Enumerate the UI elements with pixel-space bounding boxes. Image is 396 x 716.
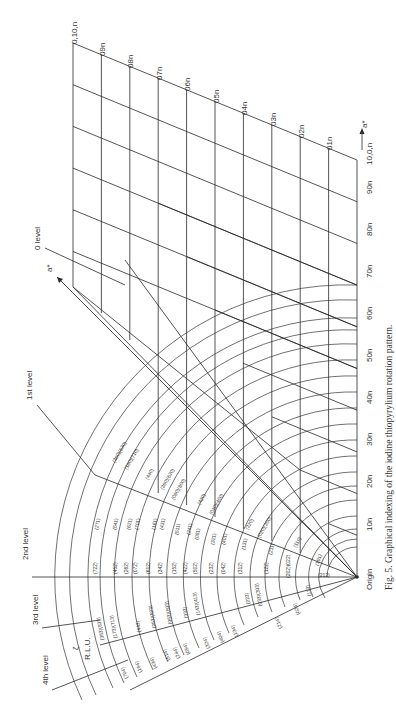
svg-text:(020)(200): (020)(200) [256, 515, 273, 539]
svg-text:(342): (342) [157, 562, 163, 574]
svg-text:(223): (223) [243, 592, 251, 605]
svg-text:(440): (440) [144, 467, 155, 480]
rlu-label: R.L.U. [83, 637, 92, 660]
svg-text:0,10,n: 0,10,n [70, 22, 79, 44]
reflections-level-2: (722) (452) (262) (072) (612) (342) (152… [92, 554, 330, 578]
svg-text:(042): (042) [220, 562, 226, 574]
svg-text:(180)(710): (180)(710) [123, 447, 140, 471]
svg-text:(621): (621) [125, 517, 133, 530]
svg-text:(312): (312) [237, 562, 243, 574]
level-3-label: 3rd level [31, 595, 40, 625]
origin-point [355, 575, 359, 579]
svg-text:80n: 80n [365, 223, 374, 236]
svg-text:(122): (122) [263, 562, 269, 574]
svg-text:(110): (110) [292, 535, 303, 548]
svg-text:02n: 02n [297, 125, 306, 138]
svg-text:(040)(400): (040)(400) [208, 492, 225, 516]
svg-text:(080)(800): (080)(800) [170, 477, 187, 501]
svg-text:(081): (081) [193, 527, 201, 540]
svg-text:(704): (704) [119, 666, 129, 679]
svg-text:(054): (054) [181, 642, 191, 655]
svg-text:(514): (514) [161, 648, 171, 661]
svg-text:(241): (241) [185, 522, 193, 535]
b-star-label: a* [45, 264, 54, 272]
svg-text:10n: 10n [365, 518, 374, 531]
a-star-label: a* [360, 120, 369, 128]
svg-text:(033)(303): (033)(303) [253, 583, 263, 607]
svg-text:(143)(413): (143)(413) [191, 592, 201, 616]
svg-text:(541): (541) [111, 517, 119, 530]
svg-text:09n: 09n [98, 43, 107, 56]
svg-text:(431): (431) [158, 517, 166, 530]
level-2-label: 2nd level [21, 528, 30, 560]
svg-text:04n: 04n [240, 102, 249, 115]
svg-text:(173)(713): (173)(713) [108, 615, 118, 639]
column-labels: 01n 02n 03n 04n 05n 06n 07n 08n 09n 0,10… [70, 22, 334, 150]
level-1-label: 1st level [25, 370, 34, 400]
svg-text:(202)(022): (202)(022) [285, 554, 291, 578]
svg-text:40n: 40n [365, 391, 374, 404]
svg-text:(211): (211) [267, 543, 275, 556]
svg-text:(072): (072) [132, 562, 138, 574]
svg-text:(113): (113) [304, 584, 312, 597]
svg-text:(134): (134) [229, 624, 239, 637]
reflections-level-3: (363)(633) (173)(713) (443) (253)(523) (… [95, 583, 312, 641]
svg-text:(502): (502) [192, 562, 198, 574]
svg-text:(212): (212) [318, 572, 330, 578]
svg-text:(262): (262) [123, 562, 129, 574]
svg-text:(422): (422) [182, 562, 188, 574]
svg-text:(321): (321) [209, 532, 217, 545]
svg-text:(024): (024) [291, 602, 301, 615]
svg-text:(101): (101) [313, 553, 323, 566]
zeta-label: ζ [71, 646, 80, 650]
svg-text:90n: 90n [365, 181, 374, 194]
svg-text:06n: 06n [183, 78, 192, 91]
svg-text:50n: 50n [365, 349, 374, 362]
svg-text:(244): (244) [171, 646, 181, 659]
indexing-diagram: a* a* 0 level [0, 0, 396, 716]
svg-text:(511): (511) [173, 523, 181, 536]
svg-text:(443): (443) [134, 620, 142, 633]
svg-text:(232): (232) [208, 562, 214, 574]
svg-text:(434): (434) [148, 656, 158, 669]
svg-text:60n: 60n [365, 307, 374, 320]
svg-text:08n: 08n [126, 55, 135, 68]
origin-label: Origin [365, 569, 374, 590]
svg-text:05n: 05n [212, 90, 221, 103]
svg-text:(131): (131) [240, 537, 248, 550]
svg-text:(333): (333) [181, 606, 189, 619]
level-0-label: 0 level [33, 227, 42, 250]
svg-text:(161): (161) [150, 517, 158, 530]
svg-text:(152): (152) [171, 562, 177, 574]
reflections-level-4: (704) (164) (434) (514) (244) (054) (324… [119, 602, 301, 679]
svg-text:(360)(630): (360)(630) [111, 440, 128, 464]
svg-text:70n: 70n [365, 265, 374, 278]
svg-text:20n: 20n [365, 475, 374, 488]
figure-caption: Fig. 5. Graphical indexing of the iodine… [384, 325, 394, 590]
svg-text:(271): (271) [93, 517, 101, 530]
reciprocal-lattice-grid [73, 43, 357, 577]
level-radials [88, 260, 357, 690]
svg-text:(401): (401) [220, 532, 228, 545]
svg-text:07n: 07n [155, 67, 164, 80]
svg-text:(324): (324) [201, 636, 211, 649]
svg-text:(452): (452) [112, 562, 118, 574]
svg-text:10,0,n: 10,0,n [365, 143, 374, 165]
svg-text:(260)(620): (260)(620) [159, 467, 176, 491]
svg-text:(214): (214) [273, 616, 283, 629]
svg-text:(253)(523): (253)(523) [147, 605, 157, 629]
svg-text:01n: 01n [325, 137, 334, 150]
svg-text:(063)(603): (063)(603) [163, 601, 173, 625]
row-labels: 10n 20n 30n 40n 50n 60n 70n 80n 90n 10,0… [365, 143, 374, 590]
svg-text:(722): (722) [92, 562, 98, 574]
svg-text:30n: 30n [365, 433, 374, 446]
svg-text:(220): (220) [244, 517, 255, 530]
svg-text:(701): (701) [133, 517, 141, 530]
svg-text:03n: 03n [269, 113, 278, 126]
svg-text:(404): (404) [215, 630, 225, 643]
svg-text:(612): (612) [145, 562, 151, 574]
level-4-label: 4th level [41, 655, 50, 685]
